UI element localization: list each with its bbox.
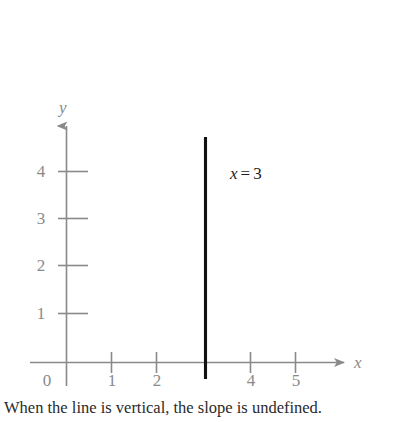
coordinate-plane-graphic [0,0,399,422]
line-equation-annotation: x=3 [230,164,262,184]
y-tick-label-2: 2 [32,257,50,274]
x-tick-label-4: 4 [242,372,260,389]
y-tick-label-4: 4 [32,163,50,180]
y-tick-label-1: 1 [32,305,50,322]
y-tick-label-3: 3 [32,210,50,227]
equation-variable: x [230,164,238,183]
figure-caption: When the line is vertical, the slope is … [4,398,396,418]
y-axis-label: y [59,99,67,116]
x-tick-label-2: 2 [148,372,166,389]
x-axis-label: x [354,354,362,371]
equation-operator: = [238,164,254,183]
x-tick-label-1: 1 [103,372,121,389]
origin-label: 0 [38,372,56,389]
figure-container: 4 3 2 1 0 1 2 4 5 y x x=3 When the line … [0,0,399,422]
x-tick-label-5: 5 [287,372,305,389]
equation-value: 3 [253,164,262,183]
